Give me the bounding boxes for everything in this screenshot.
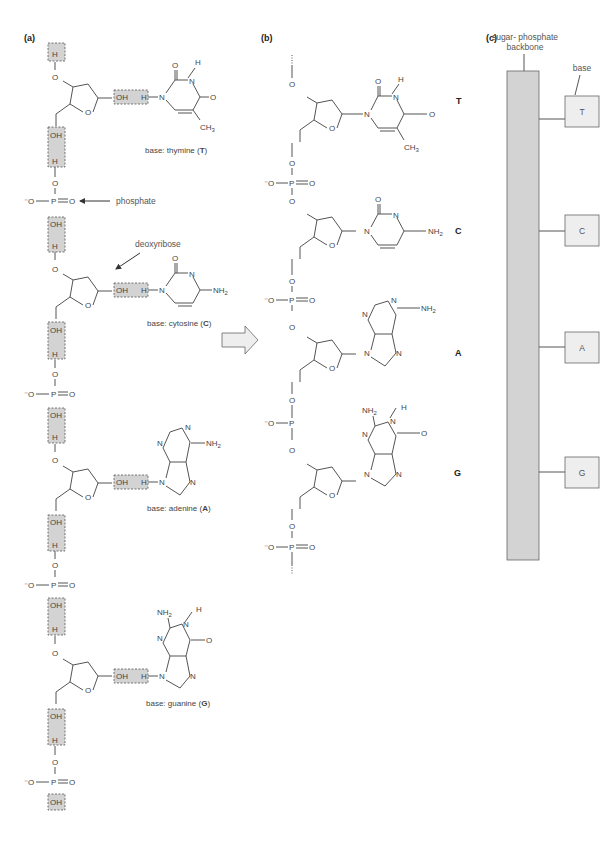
- svg-text:H: H: [401, 403, 407, 412]
- letter-g: G: [454, 468, 461, 478]
- svg-text:N: N: [390, 417, 396, 426]
- svg-text:backbone: backbone: [507, 42, 544, 52]
- svg-text:O: O: [309, 543, 315, 552]
- svg-text:N: N: [396, 349, 402, 358]
- transition-arrow-icon: [222, 326, 258, 354]
- panel-a-label: (a): [24, 33, 35, 43]
- svg-text:O: O: [69, 197, 75, 206]
- svg-text:⁻O: ⁻O: [264, 179, 274, 188]
- svg-text:H: H: [52, 50, 58, 59]
- base-caption-cytosine: base: cytosine (C): [147, 319, 212, 328]
- letter-a: A: [455, 348, 462, 358]
- svg-text:H: H: [141, 672, 147, 681]
- svg-text:OH: OH: [50, 411, 62, 420]
- svg-text:O: O: [52, 758, 58, 767]
- svg-text:N: N: [364, 349, 370, 358]
- svg-text:H: H: [141, 93, 147, 102]
- svg-text:N: N: [190, 478, 196, 487]
- sugar-phosphate-backbone: [507, 71, 539, 560]
- svg-text:O: O: [52, 265, 58, 274]
- dna-structure-diagram: O (a) H O OH H N O N H O CH3 base: thymi…: [0, 0, 612, 842]
- svg-text:P: P: [51, 778, 56, 787]
- svg-text:NH2: NH2: [362, 406, 378, 416]
- svg-text:OH: OH: [50, 326, 62, 335]
- svg-text:N: N: [185, 423, 191, 432]
- svg-text:H: H: [195, 58, 201, 67]
- svg-text:N: N: [362, 430, 368, 439]
- svg-text:C: C: [579, 226, 585, 236]
- svg-text:O: O: [375, 77, 381, 86]
- svg-text:NH2: NH2: [421, 304, 437, 314]
- svg-text:N: N: [157, 439, 163, 448]
- svg-text:H: H: [141, 478, 147, 487]
- backbone-label: sugar- phosphate: [492, 32, 558, 42]
- svg-text:O: O: [52, 456, 58, 465]
- base-caption-adenine: base: adenine (A): [147, 504, 211, 513]
- svg-text:NH2: NH2: [213, 286, 229, 296]
- svg-text:O: O: [289, 197, 295, 206]
- svg-text:O: O: [289, 80, 295, 89]
- svg-text:⁻O: ⁻O: [24, 197, 34, 206]
- panel-c: (c) sugar- phosphate backbone base T C A…: [486, 32, 599, 560]
- svg-text:CH3: CH3: [404, 143, 420, 153]
- svg-text:OH: OH: [50, 712, 62, 721]
- svg-text:N: N: [393, 93, 399, 102]
- base-caption-guanine: base: guanine (G): [146, 699, 210, 708]
- nucleotide-thymine: H O OH H N O N H O CH3 base: thymine (T)…: [24, 43, 216, 206]
- letter-c: C: [455, 226, 462, 236]
- svg-text:NH2: NH2: [157, 608, 173, 618]
- svg-text:O: O: [289, 277, 295, 286]
- svg-text:OH: OH: [50, 131, 62, 140]
- svg-text:O: O: [309, 296, 315, 305]
- svg-text:O: O: [172, 61, 178, 70]
- svg-text:⁻O: ⁻O: [264, 296, 274, 305]
- panel-b: (b) O N O N H O CH3 T O ⁻O P O O N O N N…: [261, 33, 462, 575]
- svg-text:P: P: [289, 296, 294, 305]
- deoxyribose-label: deoxyribose: [135, 239, 181, 249]
- phosphate-label: phosphate: [116, 196, 156, 206]
- svg-text:O: O: [69, 581, 75, 590]
- svg-text:O: O: [421, 429, 427, 438]
- svg-text:O: O: [289, 446, 295, 455]
- letter-t: T: [456, 96, 462, 106]
- svg-text:OH: OH: [116, 286, 128, 295]
- svg-text:N: N: [159, 478, 165, 487]
- svg-text:O: O: [289, 522, 295, 531]
- svg-text:O: O: [52, 649, 58, 658]
- svg-text:N: N: [393, 211, 399, 220]
- svg-text:N: N: [159, 672, 165, 681]
- svg-text:O: O: [52, 73, 58, 82]
- svg-text:OH: OH: [50, 798, 62, 807]
- svg-text:H: H: [141, 286, 147, 295]
- svg-text:O: O: [206, 636, 212, 645]
- svg-text:H: H: [52, 433, 58, 442]
- base-label: base: [573, 63, 592, 73]
- svg-text:O: O: [52, 561, 58, 570]
- svg-text:N: N: [396, 470, 402, 479]
- svg-text:P: P: [51, 390, 56, 399]
- svg-text:O: O: [210, 93, 216, 102]
- svg-text:⁻O: ⁻O: [24, 581, 34, 590]
- svg-text:⁻O: ⁻O: [264, 419, 274, 428]
- svg-text:P: P: [289, 179, 294, 188]
- svg-text:H: H: [52, 736, 58, 745]
- svg-text:⁻O: ⁻O: [264, 543, 274, 552]
- svg-text:G: G: [579, 468, 586, 478]
- svg-text:N: N: [364, 110, 370, 119]
- svg-text:N: N: [157, 634, 163, 643]
- svg-text:O: O: [52, 370, 58, 379]
- svg-text:NH2: NH2: [206, 439, 222, 449]
- svg-text:H: H: [196, 605, 202, 614]
- svg-text:N: N: [189, 270, 195, 279]
- svg-text:T: T: [579, 107, 584, 117]
- svg-text:N: N: [183, 620, 189, 629]
- svg-text:O: O: [309, 179, 315, 188]
- svg-text:⁻O: ⁻O: [24, 390, 34, 399]
- svg-text:O: O: [52, 179, 58, 188]
- nucleotide-adenine: OH H O OH H N N N N NH2 base: adenine (A…: [24, 408, 222, 590]
- svg-text:OH: OH: [116, 93, 128, 102]
- svg-text:P: P: [51, 581, 56, 590]
- svg-text:OH: OH: [50, 220, 62, 229]
- svg-text:O: O: [289, 159, 295, 168]
- nucleotide-cytosine: OH H O OH H N O N NH2 deoxyribose base: …: [24, 217, 229, 399]
